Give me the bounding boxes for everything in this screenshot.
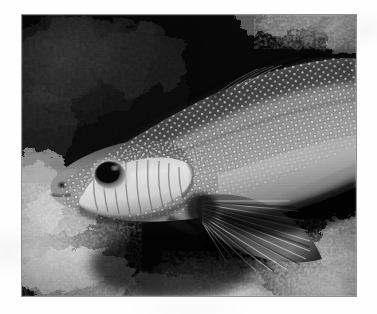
- underwater-fish-photograph: [22, 15, 356, 296]
- photo-frame: Black and white underwater photograph of…: [22, 15, 356, 296]
- photo-film-grain: [22, 15, 356, 296]
- page-background: Black and white underwater photograph of…: [0, 0, 377, 314]
